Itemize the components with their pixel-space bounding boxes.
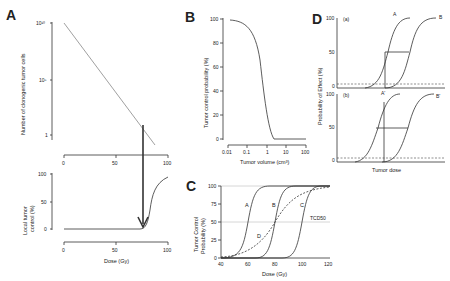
tcp-curve — [230, 20, 306, 139]
svg-text:100: 100 — [326, 91, 335, 97]
svg-text:A': A' — [381, 90, 385, 96]
svg-text:0: 0 — [44, 226, 47, 232]
svg-text:Local tumor: Local tumor — [22, 206, 28, 235]
svg-text:50: 50 — [329, 49, 335, 55]
svg-text:Tumor dose: Tumor dose — [372, 167, 401, 173]
panel-label-a: A — [6, 7, 16, 23]
svg-text:0: 0 — [332, 83, 335, 89]
svg-text:TCD50: TCD50 — [310, 215, 326, 221]
svg-text:B: B — [439, 14, 443, 20]
svg-text:100: 100 — [298, 261, 307, 267]
svg-text:40: 40 — [218, 261, 224, 267]
y-axis-label: Number of clonogenic tumor cells — [20, 53, 26, 135]
svg-text:25: 25 — [211, 237, 217, 243]
panel-a-bottom: Local tumor control (%) 100 50 0 0 50 10… — [22, 171, 172, 264]
svg-text:100: 100 — [38, 171, 47, 177]
svg-text:Probability (%): Probability (%) — [200, 218, 206, 254]
svg-text:A: A — [393, 11, 397, 17]
svg-text:50: 50 — [211, 219, 217, 225]
panel-label-b: B — [185, 9, 195, 25]
svg-text:100: 100 — [208, 183, 217, 189]
svg-text:D: D — [257, 233, 261, 239]
panel-c: Tumor Control Probability (%) 100 75 50 … — [193, 183, 333, 277]
svg-text:(b): (b) — [343, 92, 349, 98]
svg-text:Dose (Gy): Dose (Gy) — [262, 271, 287, 277]
svg-text:75: 75 — [211, 201, 217, 207]
panel-d-a: 100 50 0 (a) A B — [326, 11, 445, 89]
svg-text:80: 80 — [272, 261, 278, 267]
svg-text:0.1: 0.1 — [243, 149, 250, 155]
svg-text:0.01: 0.01 — [222, 149, 232, 155]
svg-text:60: 60 — [245, 261, 251, 267]
svg-text:50: 50 — [329, 124, 335, 130]
svg-text:C: C — [300, 202, 304, 208]
panel-b: Tumor control probability (%) 100 80 60 … — [203, 16, 310, 165]
svg-text:10⁵: 10⁵ — [39, 77, 47, 83]
panel-label-c: C — [186, 178, 196, 194]
svg-text:10¹⁰: 10¹⁰ — [36, 20, 45, 26]
svg-text:60: 60 — [213, 64, 219, 70]
cell-survival-line — [64, 23, 155, 145]
svg-text:50: 50 — [112, 160, 118, 166]
svg-text:control (%): control (%) — [29, 205, 35, 232]
svg-text:0: 0 — [62, 160, 65, 166]
svg-text:120: 120 — [324, 261, 333, 267]
svg-text:B': B' — [436, 93, 440, 99]
svg-text:10: 10 — [283, 149, 289, 155]
tumor-control-curve — [64, 177, 168, 229]
svg-text:0: 0 — [216, 136, 219, 142]
svg-text:Tumor Control: Tumor Control — [193, 217, 199, 252]
svg-text:100: 100 — [210, 16, 219, 22]
svg-text:100: 100 — [326, 15, 335, 21]
svg-text:40: 40 — [213, 88, 219, 94]
svg-text:0: 0 — [62, 247, 65, 253]
svg-text:A: A — [245, 202, 249, 208]
panel-a-top: Number of clonogenic tumor cells 10¹⁰ 10… — [20, 20, 172, 166]
svg-text:50: 50 — [41, 199, 47, 205]
svg-text:0: 0 — [214, 255, 217, 261]
svg-text:1: 1 — [45, 132, 48, 138]
curve-a — [365, 18, 410, 88]
svg-text:80: 80 — [213, 40, 219, 46]
svg-text:0: 0 — [332, 157, 335, 163]
figure: A Number of clonogenic tumor cells 10¹⁰ … — [0, 0, 450, 281]
svg-text:(a): (a) — [343, 16, 349, 22]
panel-d-b: 100 50 0 (b) A' B' Tumor dose — [326, 90, 445, 173]
arrow — [138, 125, 148, 227]
svg-text:100: 100 — [301, 149, 310, 155]
svg-text:100: 100 — [163, 247, 172, 253]
svg-text:50: 50 — [112, 247, 118, 253]
svg-text:B: B — [272, 202, 276, 208]
svg-text:1: 1 — [266, 149, 269, 155]
svg-text:Probability of Effect (%): Probability of Effect (%) — [317, 67, 323, 125]
panel-label-d: D — [312, 11, 322, 27]
x-axis-label: Dose (Gy) — [104, 258, 129, 264]
curve-b — [385, 18, 436, 88]
svg-text:100: 100 — [163, 160, 172, 166]
svg-text:Tumor control probability (%): Tumor control probability (%) — [203, 57, 209, 128]
svg-text:Tumor volume (cm³): Tumor volume (cm³) — [240, 159, 289, 165]
svg-text:20: 20 — [213, 112, 219, 118]
